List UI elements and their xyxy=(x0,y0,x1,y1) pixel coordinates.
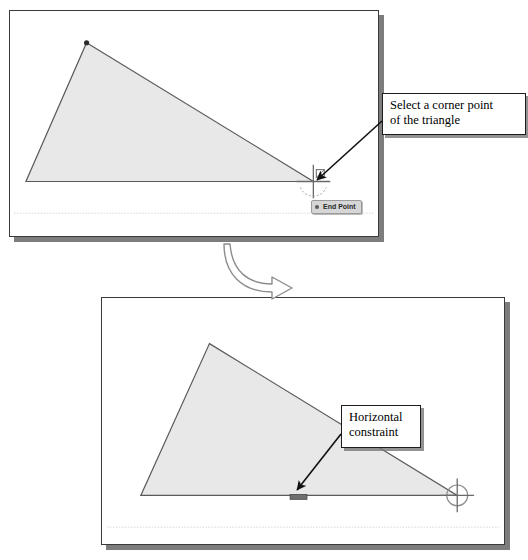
vertex-marker-top[interactable] xyxy=(84,40,89,45)
callout-select-corner-point: Select a corner point of the triangle xyxy=(382,93,526,135)
horizontal-constraint-marker[interactable] xyxy=(290,494,307,499)
endpoint-snap-tooltip: End Point xyxy=(311,200,362,214)
cad-drawing-area-step-two[interactable] xyxy=(102,298,504,544)
endpoint-snap-label: End Point xyxy=(323,202,356,212)
crosshair-cursor-circle xyxy=(440,479,474,513)
transition-flow-arrow xyxy=(224,244,292,299)
cad-viewport-step-one[interactable]: End Point xyxy=(9,10,379,237)
cad-viewport-step-two[interactable] xyxy=(101,297,505,545)
triangle-shape[interactable] xyxy=(26,43,313,182)
callout-horizontal-constraint: Horizontal constraint xyxy=(341,405,421,448)
crosshair-cursor-endpoint xyxy=(296,165,330,199)
endpoint-snap-icon xyxy=(315,205,319,209)
triangle-drawing-step-two xyxy=(102,298,504,544)
figure-canvas: End Point Select a corner point of the t… xyxy=(0,0,528,560)
